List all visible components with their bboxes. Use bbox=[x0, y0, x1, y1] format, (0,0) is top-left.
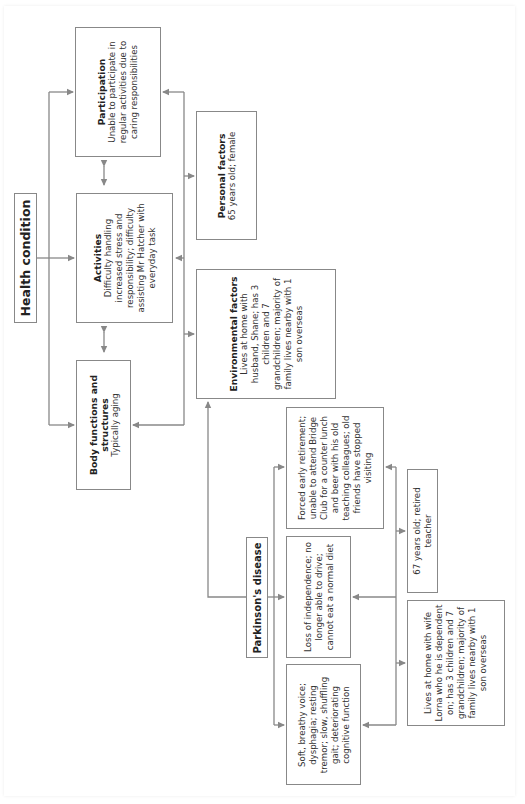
node-health-condition: Health condition bbox=[14, 193, 37, 323]
node-pd-environmental-factors: Lives at home with wife Lorna who he is … bbox=[407, 600, 505, 726]
node-text: Forced early retirement; unable to atten… bbox=[297, 416, 373, 521]
node-pd-participation: Forced early retirement; unable to atten… bbox=[286, 407, 384, 529]
node-participation: Participation Unable to participate in r… bbox=[75, 27, 161, 157]
node-pd-personal-factors: 67 years old; retired teacher bbox=[407, 469, 438, 593]
node-activities: Activities Difficulty handling increased… bbox=[76, 193, 173, 323]
node-body-functions: Body functions and structures Typically … bbox=[76, 360, 131, 490]
node-pd-activities: Loss of independence; no longer able to … bbox=[286, 536, 351, 658]
node-title: Parkinson's disease bbox=[252, 539, 263, 657]
node-title: Participation bbox=[96, 30, 107, 154]
node-text: 65 years old; female bbox=[227, 131, 237, 219]
node-text: Soft, breathy voice; dysphagia; resting … bbox=[296, 676, 350, 772]
node-personal-factors: Personal factors 65 years old; female bbox=[196, 111, 257, 240]
node-text: Lives at home with husband, Shane; has 3… bbox=[239, 278, 304, 390]
node-text: Unable to participate in regular activit… bbox=[107, 41, 139, 143]
node-text: Typically aging bbox=[109, 393, 119, 456]
node-title: Health condition bbox=[19, 195, 33, 321]
node-environmental-factors: Environmental factors Lives at home with… bbox=[196, 269, 336, 399]
node-text: Lives at home with wife Lorna who he is … bbox=[423, 605, 488, 722]
node-parkinsons-disease: Parkinson's disease bbox=[246, 537, 268, 658]
node-pd-body-functions: Soft, breathy voice; dysphagia; resting … bbox=[286, 664, 361, 785]
node-text: Loss of independence; no longer able to … bbox=[302, 542, 334, 652]
node-text: Difficulty handling increased stress and… bbox=[103, 203, 157, 312]
node-text: 67 years old; retired teacher bbox=[412, 487, 433, 574]
node-title: Activities bbox=[92, 200, 103, 316]
node-title: Personal factors bbox=[216, 121, 227, 231]
node-title: Body functions and structures bbox=[87, 365, 109, 485]
node-title: Environmental factors bbox=[228, 276, 239, 392]
